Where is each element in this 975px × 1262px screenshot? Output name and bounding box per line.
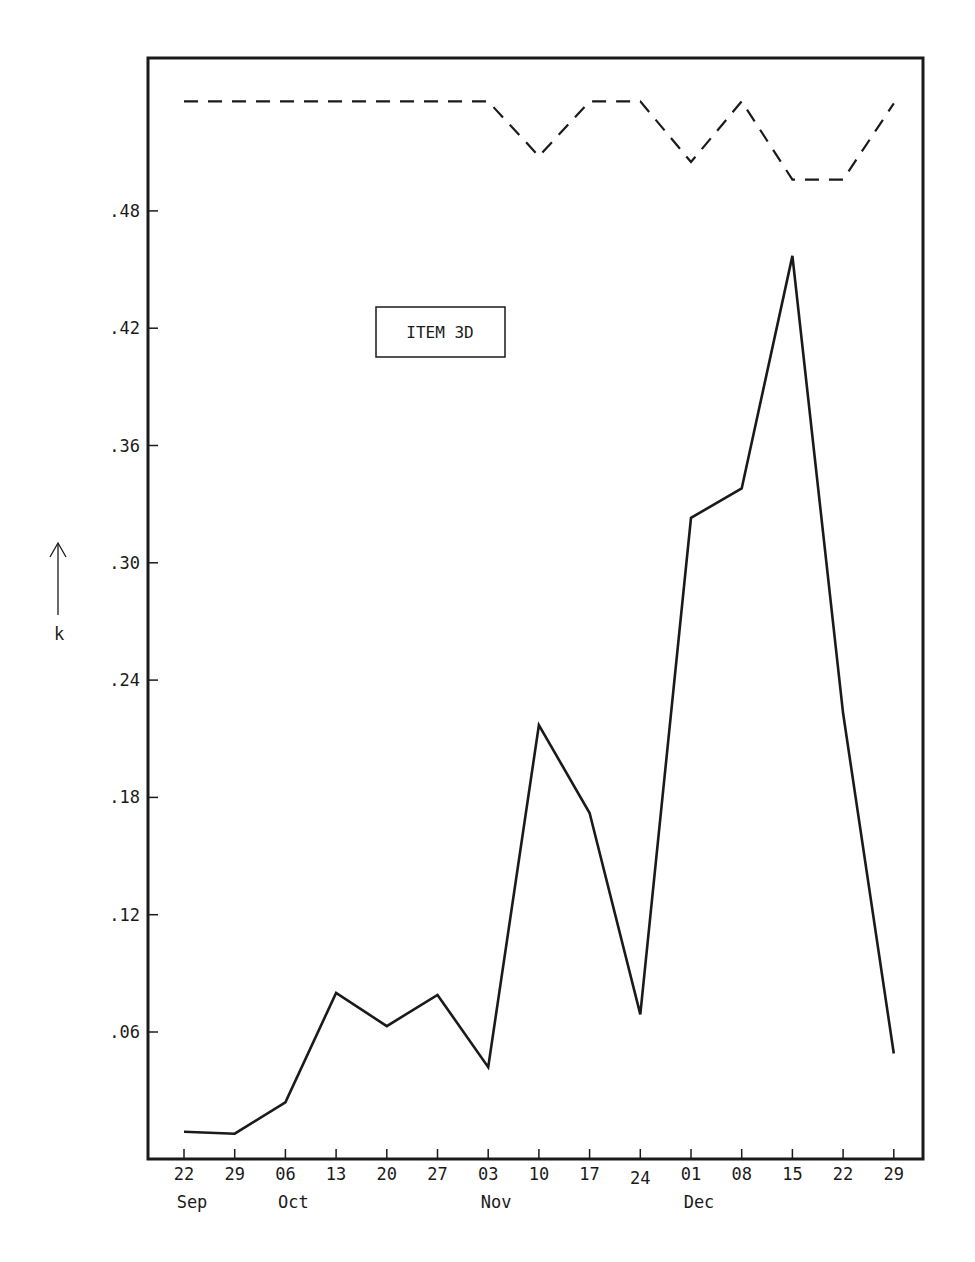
month-label: Nov bbox=[481, 1192, 512, 1212]
item-label: ITEM 3D bbox=[406, 323, 473, 342]
y-tick-label: .48 bbox=[109, 201, 140, 221]
x-tick-label: 29 bbox=[224, 1164, 244, 1184]
x-tick-label: 17 bbox=[579, 1164, 599, 1184]
item-label-box: ITEM 3D bbox=[376, 307, 505, 357]
plot-frame bbox=[148, 58, 923, 1159]
month-label: Dec bbox=[684, 1192, 715, 1212]
x-tick-label: 10 bbox=[529, 1164, 549, 1184]
y-tick-label: .18 bbox=[109, 787, 140, 807]
up-arrow-icon bbox=[50, 543, 66, 615]
x-tick-label: 01 bbox=[681, 1164, 701, 1184]
x-tick-label: 22 bbox=[833, 1164, 853, 1184]
solid-series-line bbox=[184, 256, 894, 1134]
y-tick-label: .06 bbox=[109, 1022, 140, 1042]
x-tick-label: 13 bbox=[326, 1164, 346, 1184]
dashed-series-line bbox=[184, 101, 894, 179]
x-tick-label: 15 bbox=[782, 1164, 802, 1184]
y-tick-label: .12 bbox=[109, 905, 140, 925]
x-tick-label: 20 bbox=[377, 1164, 397, 1184]
series-layer bbox=[184, 101, 894, 1133]
month-label: Sep bbox=[177, 1192, 208, 1212]
line-chart: .06.12.18.24.30.36.42.48 222906132027031… bbox=[0, 0, 975, 1262]
month-label: Oct bbox=[278, 1192, 309, 1212]
y-axis: .06.12.18.24.30.36.42.48 bbox=[109, 201, 158, 1042]
x-tick-label: 22 bbox=[174, 1164, 194, 1184]
x-tick-label: 27 bbox=[427, 1164, 447, 1184]
y-tick-label: .24 bbox=[109, 670, 140, 690]
x-tick-label: 03 bbox=[478, 1164, 498, 1184]
y-tick-label: .36 bbox=[109, 436, 140, 456]
y-tick-label: .30 bbox=[109, 553, 140, 573]
x-tick-label: 08 bbox=[731, 1164, 751, 1184]
y-tick-label: .42 bbox=[109, 318, 140, 338]
y-axis-label-group: k bbox=[50, 543, 66, 644]
x-tick-label: 24 bbox=[630, 1168, 650, 1188]
x-tick-label: 06 bbox=[275, 1164, 295, 1184]
y-axis-label: k bbox=[54, 624, 64, 644]
x-tick-label: 29 bbox=[884, 1164, 904, 1184]
